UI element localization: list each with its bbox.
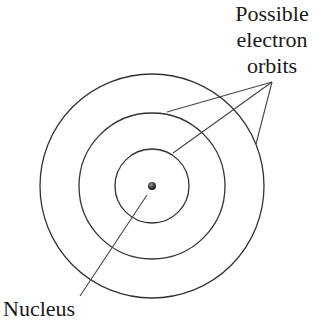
orbits-pointer-lines	[167, 82, 272, 153]
nucleus-dot	[148, 182, 156, 190]
orbit-pointer-line-2	[173, 82, 272, 153]
atom-diagram: Possible electron orbits Nucleus	[0, 0, 319, 326]
orbits-label: Possible electron orbits	[222, 1, 319, 79]
nucleus-pointer-line	[80, 195, 147, 296]
nucleus-label: Nucleus	[3, 296, 75, 322]
orbits-label-line-3: orbits	[222, 53, 319, 79]
orbits-label-line-1: Possible	[222, 1, 319, 27]
orbits-label-line-2: electron	[222, 27, 319, 53]
orbit-pointer-line-1	[167, 82, 272, 112]
